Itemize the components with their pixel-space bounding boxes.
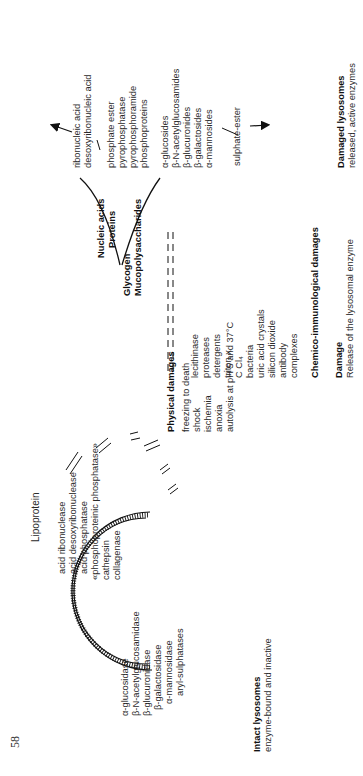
substrate-item: Glycogen xyxy=(122,199,133,296)
intact-lysosomes-subtitle: enzyme-bound and inactive xyxy=(263,638,274,752)
physical-damages-title: Physical damages xyxy=(166,322,177,432)
chemico-item: C Cl₄ xyxy=(234,309,245,378)
chemico-item: bacteria xyxy=(245,309,256,378)
chemico-item: proteases xyxy=(201,309,212,378)
arrow-up-icon xyxy=(52,125,72,132)
substrate-item: Proteins xyxy=(107,199,118,248)
chemico-item: complexes xyxy=(289,309,300,378)
enzyme-item: β-N-acetylglucosamidase xyxy=(131,611,142,716)
product-item: β-galactosides xyxy=(193,69,204,168)
enzyme-item: acid ribonuclease xyxy=(57,443,68,574)
arrow-down-icon xyxy=(250,125,268,126)
glyco-products: α-glucosides β-N-acetylglucosamides β-gl… xyxy=(160,69,215,168)
product-item: β-glucuronides xyxy=(182,69,193,168)
damage-subtitle: Release of the lysosomal enzyme xyxy=(345,239,356,378)
chemico-item: triton x xyxy=(223,309,234,378)
substrate-item: Nucleic acids xyxy=(96,199,107,258)
chemico-agents: lecithinase proteases detergents triton … xyxy=(190,309,300,378)
product-item: α-mannosides xyxy=(204,69,215,168)
enzyme-list-2: α-glucosidase β-N-acetylglucosamidase β-… xyxy=(120,611,186,716)
enzyme-item: acid desoxyribonuclease xyxy=(68,443,79,574)
phospho-products: phosphate ester pyrophosphatase pyrophos… xyxy=(106,86,150,168)
substrates-group-2: Glycogen Mucopolysaccharides xyxy=(122,199,144,296)
substrate-arrows xyxy=(80,178,160,265)
enzyme-item: β-glucuronidase xyxy=(142,611,153,716)
tick-mark xyxy=(97,140,100,150)
chemico-item: detergents xyxy=(212,309,223,378)
product-item: α-glucosides xyxy=(160,69,171,168)
chemico-item: uric acid crystals xyxy=(256,309,267,378)
chemico-immunological-title: Chemico-immunological damages xyxy=(310,227,321,378)
product-item: β-N-acetylglucosamides xyxy=(171,69,182,168)
product-item: desoxyribonucleic acid xyxy=(83,74,94,168)
enzyme-item: acid phosphatase xyxy=(79,443,90,574)
enzyme-item: α-mannosidase xyxy=(164,611,175,704)
product-item: pyrophosphoramide xyxy=(128,86,139,168)
damaged-lysosomes-title: Damaged lysosomes xyxy=(336,63,347,168)
enzyme-list-1: acid ribonuclease acid desoxyribonucleas… xyxy=(57,443,123,574)
lipoprotein-label: Lipoprotein xyxy=(30,493,41,542)
intact-lysosomes-title: Intact lysosomes xyxy=(252,638,263,752)
enzyme-item: aryl-sulphatases xyxy=(175,611,186,696)
damaged-lysosomes-caption: Damaged lysosomes released, active enzym… xyxy=(336,63,358,168)
damage-title: Damage xyxy=(334,239,345,378)
enzyme-item: cathepsin xyxy=(101,443,112,580)
nucleic-products: ribonucleic acid desoxyribonucleic acid xyxy=(72,74,94,168)
enzyme-item: β-galactosidase xyxy=(153,611,164,710)
enzyme-item: collagenase xyxy=(112,443,123,580)
chemico-item: lecithinase xyxy=(190,309,201,378)
enzyme-item: α-glucosidase xyxy=(120,611,131,716)
product-item: phosphate ester xyxy=(106,86,117,168)
chemico-item: silicon dioxide xyxy=(267,309,278,378)
chemico-item: antibody xyxy=(278,309,289,378)
product-item: phosphoproteins xyxy=(139,86,150,168)
damaged-lysosomes-subtitle: released, active enzymes xyxy=(347,63,358,168)
enzyme-item: «phosphoproteinic phosphatase» xyxy=(90,443,101,580)
intact-lysosomes-caption: Intact lysosomes enzyme-bound and inacti… xyxy=(252,638,274,752)
product-item: ribonucleic acid xyxy=(72,74,83,168)
substrate-item: Mucopolysaccharides xyxy=(133,199,144,296)
page-number: 58 xyxy=(8,736,23,748)
sulphate-ester-label: sulphate-ester xyxy=(232,107,243,166)
product-item: pyrophosphatase xyxy=(117,86,128,168)
damage-caption: Damage Release of the lysosomal enzyme xyxy=(334,239,356,378)
substrates-group-1: Nucleic acids Proteins xyxy=(96,199,118,258)
